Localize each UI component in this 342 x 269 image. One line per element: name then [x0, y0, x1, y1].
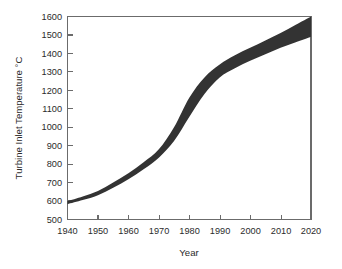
x-tick-label: 1940 [57, 226, 77, 236]
chart-figure: 500 600 700 800 900 1000 1100 1200 1300 … [0, 0, 342, 269]
y-tick-label: 1600 [42, 12, 62, 22]
y-tick-label: 1100 [42, 104, 62, 114]
x-tick-labels: 1940 1950 1960 1970 1980 1990 2000 2010 … [57, 226, 321, 236]
x-tick-label: 2000 [240, 226, 260, 236]
y-tick-label: 600 [47, 196, 62, 206]
y-tick-label: 1200 [42, 86, 62, 96]
x-tick-label: 1990 [210, 226, 230, 236]
y-tick-label: 1300 [42, 67, 62, 77]
x-tick-label: 2010 [271, 226, 291, 236]
y-tick-label: 1400 [42, 49, 62, 59]
y-tick-label: 1000 [42, 122, 62, 132]
y-tick-label: 500 [47, 215, 62, 225]
y-tick-label: 700 [47, 178, 62, 188]
x-tick-label: 1960 [118, 226, 138, 236]
x-tick-label: 1970 [149, 226, 169, 236]
y-tick-label: 900 [47, 141, 62, 151]
x-tick-label: 1950 [88, 226, 108, 236]
x-tick-label: 1980 [179, 226, 199, 236]
turbine-inlet-temperature-chart: 500 600 700 800 900 1000 1100 1200 1300 … [0, 0, 342, 269]
x-tick-label: 2020 [301, 226, 321, 236]
y-axis-title: Turbine Inlet Temperature °C [13, 57, 24, 180]
x-axis-title: Year [179, 247, 199, 258]
y-tick-label: 1500 [42, 30, 62, 40]
y-tick-label: 800 [47, 159, 62, 169]
